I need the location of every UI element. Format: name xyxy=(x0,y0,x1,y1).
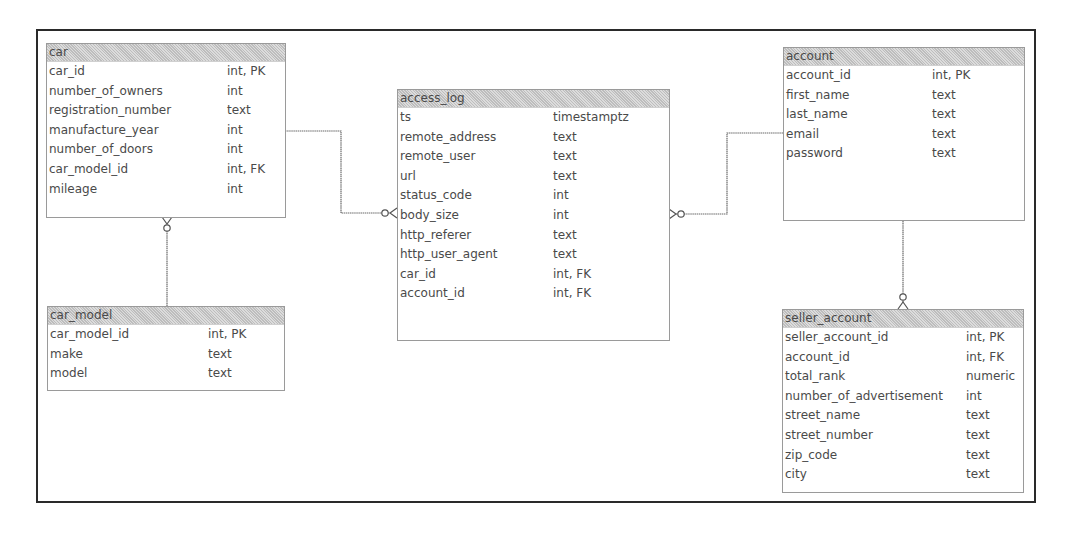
column-row: car_idint, PK xyxy=(47,62,285,82)
column-row: street_nametext xyxy=(783,406,1023,426)
entity-access-log[interactable]: access_log tstimestamptz remote_addresst… xyxy=(397,89,670,341)
column-row: last_nametext xyxy=(784,105,1024,125)
entity-header: seller_account xyxy=(783,310,1023,328)
column-row: account_idint, FK xyxy=(398,284,669,304)
column-row: modeltext xyxy=(48,364,284,384)
column-row: number_of_ownersint xyxy=(47,82,285,102)
column-row: zip_codetext xyxy=(783,446,1023,466)
entity-header: car xyxy=(47,44,285,62)
column-row: remote_addresstext xyxy=(398,128,669,148)
column-row: car_model_idint, PK xyxy=(48,325,284,345)
column-row: emailtext xyxy=(784,125,1024,145)
column-row: body_sizeint xyxy=(398,206,669,226)
column-row: citytext xyxy=(783,465,1023,485)
column-row: number_of_advertisementint xyxy=(783,387,1023,407)
column-row: first_nametext xyxy=(784,86,1024,106)
column-row: http_referertext xyxy=(398,226,669,246)
column-row: maketext xyxy=(48,345,284,365)
column-row: urltext xyxy=(398,167,669,187)
column-row: account_idint, PK xyxy=(784,66,1024,86)
entity-car-model[interactable]: car_model car_model_idint, PK maketext m… xyxy=(47,306,285,391)
entity-header: account xyxy=(784,48,1024,66)
column-row: mileageint xyxy=(47,180,285,200)
entity-header: car_model xyxy=(48,307,284,325)
column-row: number_of_doorsint xyxy=(47,140,285,160)
column-row: total_ranknumeric xyxy=(783,367,1023,387)
column-row: passwordtext xyxy=(784,144,1024,164)
column-row: tstimestamptz xyxy=(398,108,669,128)
column-row: car_model_idint, FK xyxy=(47,160,285,180)
column-row: seller_account_idint, PK xyxy=(783,328,1023,348)
entity-account[interactable]: account account_idint, PK first_nametext… xyxy=(783,47,1025,221)
entity-seller-account[interactable]: seller_account seller_account_idint, PK … xyxy=(782,309,1024,493)
column-row: manufacture_yearint xyxy=(47,121,285,141)
entity-header: access_log xyxy=(398,90,669,108)
column-row: remote_usertext xyxy=(398,147,669,167)
entity-car[interactable]: car car_idint, PK number_of_ownersint re… xyxy=(46,43,286,218)
column-row: registration_numbertext xyxy=(47,101,285,121)
column-row: status_codeint xyxy=(398,186,669,206)
column-row: account_idint, FK xyxy=(783,348,1023,368)
column-row: http_user_agenttext xyxy=(398,245,669,265)
column-row: car_idint, FK xyxy=(398,265,669,285)
column-row: street_numbertext xyxy=(783,426,1023,446)
